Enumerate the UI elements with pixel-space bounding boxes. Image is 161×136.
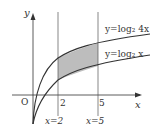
- y-axis-label: y: [23, 7, 30, 18]
- y-axis-arrow-icon: [31, 13, 36, 20]
- x-axis-arrow-icon: [135, 93, 142, 98]
- origin-label: O: [21, 97, 28, 107]
- log-curves-diagram: y x O 2 5 x=2 x=5 y=log₂ 4x y=log₂ x: [0, 0, 161, 136]
- x-axis-label: x: [135, 99, 141, 110]
- tick-label-5: 5: [99, 98, 105, 108]
- curve-label-log2-x: y=log₂ x: [104, 49, 143, 59]
- tick-label-2: 2: [60, 98, 66, 108]
- line-label-x-5: x=5: [86, 116, 105, 126]
- curve-label-log2-4x: y=log₂ 4x: [104, 24, 149, 34]
- line-label-x-2: x=2: [45, 116, 64, 126]
